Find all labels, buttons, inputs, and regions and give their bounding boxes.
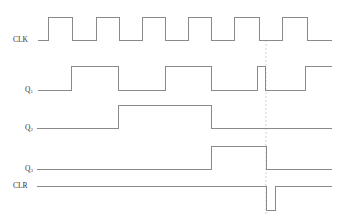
waveform-canvas <box>0 0 345 221</box>
signal-label-q1: Q1 <box>25 86 33 94</box>
q3-label-sub: 3 <box>30 168 33 173</box>
q2-label-sub: 2 <box>30 127 33 132</box>
waveform-clk <box>38 17 332 40</box>
timing-diagram: CLK Q1 Q2 Q3 CLR <box>0 0 345 221</box>
clk-label-text: CLK <box>13 35 28 44</box>
waveform-q1 <box>38 66 332 90</box>
waveform-q3 <box>37 146 332 169</box>
waveform-clr <box>37 186 332 210</box>
waveform-q2 <box>37 105 332 128</box>
signal-label-clr: CLR <box>13 182 28 190</box>
q1-label-sub: 1 <box>30 89 33 94</box>
clr-label-text: CLR <box>13 181 28 190</box>
signal-label-clk: CLK <box>13 36 28 44</box>
signal-label-q2: Q2 <box>25 124 33 132</box>
signal-label-q3: Q3 <box>25 165 33 173</box>
